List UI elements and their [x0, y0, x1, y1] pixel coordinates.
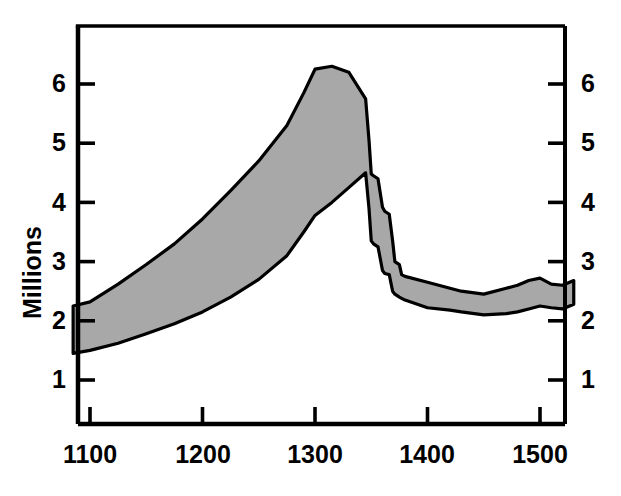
y-axis-title: Millions	[18, 208, 47, 338]
y-tick-right-5: 5	[581, 130, 621, 155]
y-tick-right-3: 3	[581, 249, 621, 274]
y-tick-left-1: 1	[26, 367, 66, 392]
x-tick-1100: 1100	[30, 442, 150, 467]
x-tick-1400: 1400	[367, 442, 487, 467]
y-tick-right-6: 6	[581, 71, 621, 96]
x-tick-1300: 1300	[255, 442, 375, 467]
y-tick-left-5: 5	[26, 130, 66, 155]
y-tick-right-4: 4	[581, 190, 621, 215]
x-tick-1200: 1200	[143, 442, 263, 467]
x-tick-1500: 1500	[480, 442, 600, 467]
y-tick-left-6: 6	[26, 71, 66, 96]
estimate-band-fill	[73, 66, 574, 353]
population-range-chart: 6 5 4 3 2 1 6 5 4 3 2 1 1100 1200 1300 1…	[0, 0, 621, 496]
y-tick-right-1: 1	[581, 367, 621, 392]
y-tick-right-2: 2	[581, 308, 621, 333]
estimate-band	[73, 66, 574, 353]
chart-canvas	[0, 0, 621, 496]
